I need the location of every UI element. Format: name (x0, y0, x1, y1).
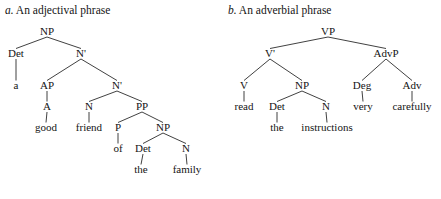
tree-node-label: NP (40, 25, 54, 37)
figure-panel-b: b. An adverbial phrase VPV'AdvPVNPDegAdv… (220, 0, 441, 199)
tree-branch (89, 91, 117, 102)
tree-node-label: N' (112, 79, 122, 91)
tree-node-label: Deg (353, 79, 372, 91)
tree-terminal-word: read (235, 100, 254, 112)
tree-node-label: PP (136, 100, 148, 112)
tree-node-label: P (115, 121, 121, 133)
figure-panel-a: a. An adjectival phrase NPDetN'aAPN'ANPP… (0, 0, 220, 199)
tree-branch (270, 59, 302, 81)
syntax-tree-adverbial-phrase: VPV'AdvPVNPDegAdvreadDetNverycarefullyth… (220, 0, 441, 199)
tree-terminal-word: carefully (392, 100, 432, 112)
tree-branch (270, 37, 328, 49)
tree-terminal-word: friend (76, 121, 103, 133)
tree-branch (81, 59, 117, 81)
tree-branch (386, 59, 412, 81)
tree-node-label: NP (295, 79, 309, 91)
tree-branch (362, 59, 386, 81)
tree-branch (244, 59, 270, 81)
tree-node-label: Det (269, 100, 285, 112)
tree-node-label: A (43, 100, 51, 112)
tree-terminal-word: very (353, 100, 373, 112)
tree-terminal-word: good (35, 121, 58, 133)
tree-node-label: V (240, 79, 248, 91)
tree-node-label: N (322, 100, 330, 112)
tree-node-label: AP (40, 79, 54, 91)
tree-branch (118, 112, 142, 123)
syntax-tree-adjectival-phrase: NPDetN'aAPN'ANPPgoodfriendPNPofDetNthefa… (0, 0, 220, 199)
tree-node-label: N (182, 142, 190, 154)
tree-node-label: VP (321, 25, 335, 37)
tree-branch (47, 59, 81, 81)
tree-node-label: Det (8, 47, 24, 59)
tree-node-label: Det (135, 142, 151, 154)
tree-node-label: NP (156, 121, 170, 133)
tree-terminal-word: family (173, 163, 202, 175)
tree-terminal-word: a (14, 79, 19, 91)
tree-terminal-word: the (134, 163, 148, 175)
tree-node-label: AdvP (373, 47, 398, 59)
tree-node-label: Adv (403, 79, 422, 91)
tree-node-label: N (85, 100, 93, 112)
tree-terminal-word: instructions (301, 121, 352, 133)
tree-node-label: V' (265, 47, 275, 59)
tree-terminal-word: the (270, 121, 284, 133)
tree-node-label: N' (76, 47, 86, 59)
tree-terminal-word: of (113, 142, 123, 154)
